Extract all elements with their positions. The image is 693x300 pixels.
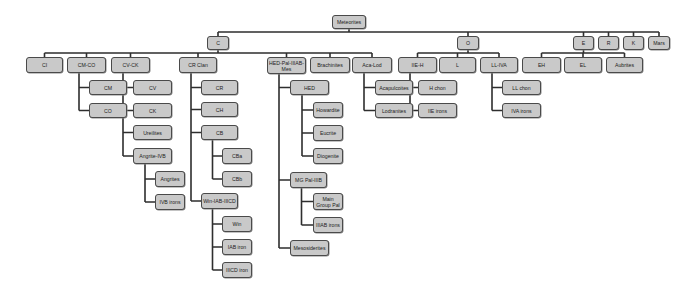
node-ivb: IVB irons: [155, 194, 185, 210]
meteorite-classification-tree: MeteoritesCOERKMarsCICM-COCV-CKCR ClanHE…: [0, 0, 693, 300]
node-how: Howardite: [313, 102, 343, 118]
node-euc: Eucrite: [313, 125, 343, 141]
node-meteorites: Meteorites: [332, 15, 366, 29]
node-llivA: LL-IVA: [480, 57, 518, 73]
node-mars: Mars: [648, 36, 670, 50]
node-cvck: CV-CK: [111, 57, 150, 73]
node-iiiab: IIIAB irons: [313, 217, 343, 233]
node-aub: Aubrites: [606, 57, 643, 73]
node-iab: IAB iron: [222, 239, 252, 255]
node-iiicd: IIICD iron: [222, 262, 252, 278]
node-ch: CH: [201, 102, 238, 117]
node-meso: Mesosiderites: [290, 240, 329, 256]
node-o: O: [457, 36, 479, 50]
node-cv: CV: [133, 80, 172, 95]
node-cb: CB: [201, 125, 238, 140]
node-angivb: Angrite-IVB: [133, 148, 172, 164]
node-e: E: [573, 36, 594, 50]
node-cbb: CBb: [222, 171, 252, 187]
node-iieh: IIE-H: [398, 57, 437, 73]
node-r: R: [598, 36, 619, 50]
node-winiab: Win-IAB-IIICD: [201, 193, 238, 209]
node-mainpal: Main Group Pal: [313, 193, 343, 210]
node-iieirons: IIE irons: [418, 103, 457, 118]
node-co: CO: [89, 103, 127, 118]
node-aca: Acapulcoites: [375, 80, 413, 95]
node-ck: CK: [133, 103, 172, 118]
node-eh: EH: [522, 57, 561, 73]
node-hchon: H chon: [418, 80, 457, 95]
node-cmco: CM-CO: [67, 57, 106, 73]
node-lod: Lodranites: [375, 103, 413, 118]
node-hedpal: HED-Pal-IIIAB-Mes: [267, 57, 306, 74]
node-c: C: [207, 36, 229, 50]
node-crclan: CR Clan: [179, 57, 217, 73]
node-cr: CR: [201, 80, 238, 95]
node-hed: HED: [290, 80, 329, 95]
node-cm: CM: [89, 80, 127, 95]
node-k: K: [623, 36, 644, 50]
node-ure: Ureilites: [133, 125, 172, 140]
node-mgpal: MG Pal-IIIB: [290, 172, 327, 188]
node-el: EL: [564, 57, 602, 73]
node-acalod: Aca-Lod: [352, 57, 392, 73]
node-win: Win: [222, 216, 252, 232]
node-dio: Diogenite: [313, 148, 343, 164]
node-l: L: [439, 57, 476, 73]
node-llchon: LL chon: [502, 80, 541, 95]
node-ang: Angrites: [155, 171, 185, 187]
node-cba: CBa: [222, 148, 252, 164]
node-ivairons: IVA irons: [502, 103, 541, 118]
node-ci: CI: [26, 57, 63, 73]
node-brach: Brachinites: [310, 57, 350, 73]
